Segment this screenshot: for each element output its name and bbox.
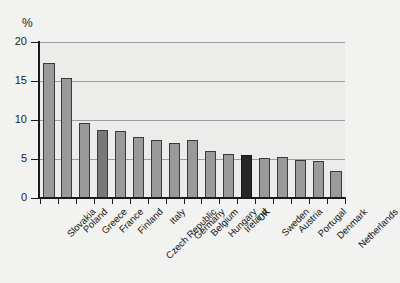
- x-label-italy: Italy: [167, 206, 187, 226]
